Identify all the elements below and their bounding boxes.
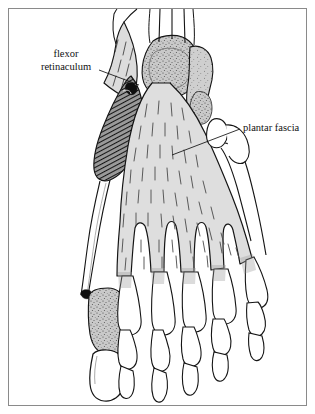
little-toe-phalanges [245,257,267,361]
abductor-hallucis-tendon [81,180,110,299]
flexor-retinaculum-label-line2: retinaculum [41,61,91,72]
fourth-toe-phalanges [182,272,207,395]
foot-anatomy-illustration: flexor retinaculum plantar fascia [0,0,315,414]
plantar-fascia-structure [117,83,252,276]
third-toe-phalanges [151,272,175,402]
second-toe-phalanges [118,276,141,398]
figure-root: flexor retinaculum plantar fascia [0,0,315,414]
plantar-fascia-label: plantar fascia [243,122,300,133]
flexor-retinaculum-label-line1: flexor [53,48,79,59]
fifth-toe-phalanges [212,269,237,381]
